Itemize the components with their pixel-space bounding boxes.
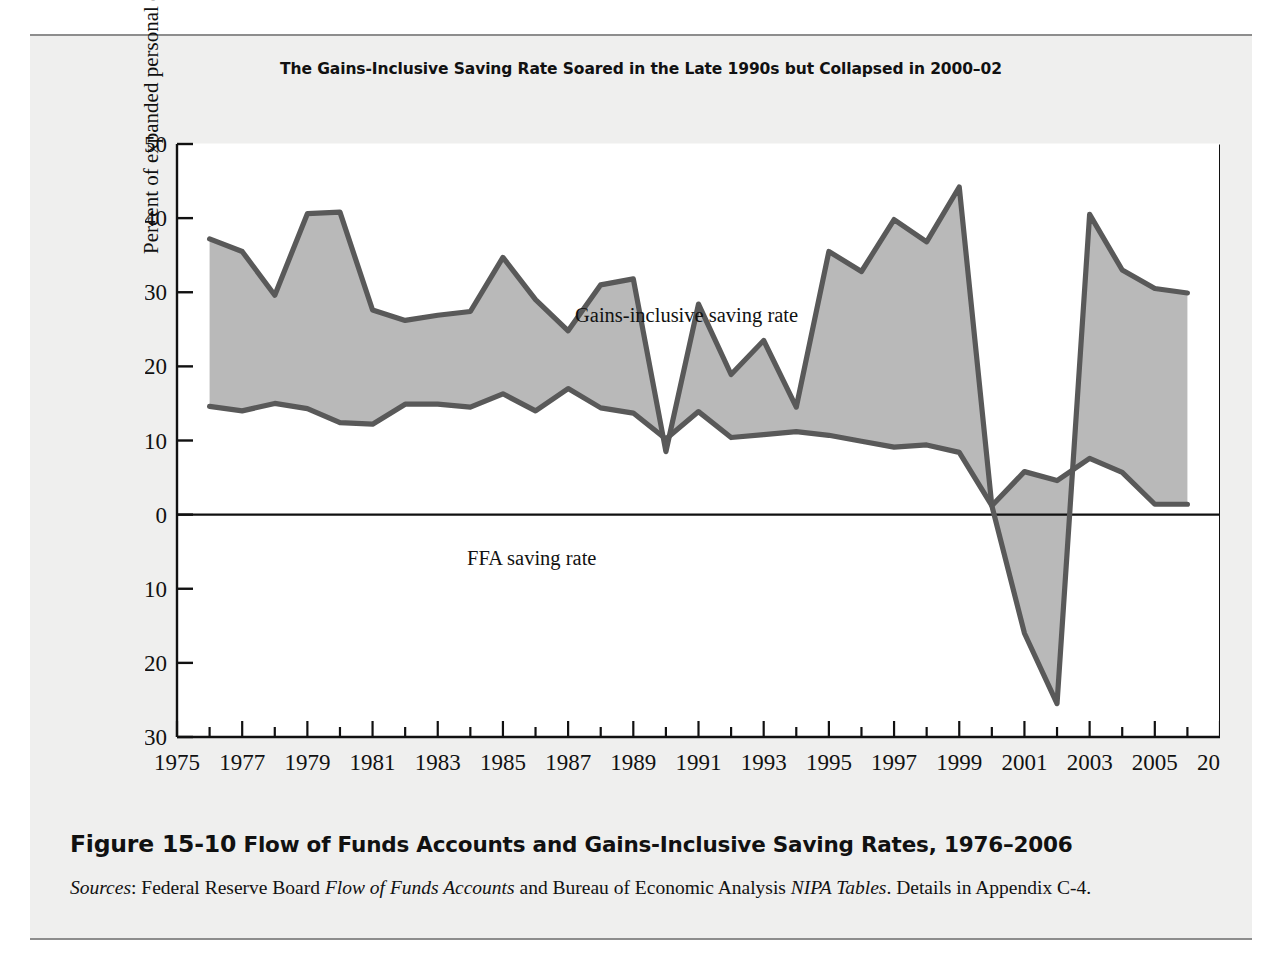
caption-sources: Sources: Federal Reserve Board Flow of F… [70,872,1160,903]
x-tick-label: 1979 [284,750,330,775]
x-tick-label: 1985 [480,750,526,775]
sources-text-1: : Federal Reserve Board [131,877,325,898]
caption-main: Figure 15-10 Flow of Funds Accounts and … [70,830,1160,859]
x-tick-label: 1975 [154,750,200,775]
y-axis-label: Percent of expanded personal disposable … [139,0,164,254]
x-tick-label: 2001 [1001,750,1047,775]
y-tick-label: 30 [145,280,167,305]
y-tick-label: 0 [156,503,168,528]
caption-figure-number: Figure 15-10 [70,830,236,858]
saving-rate-area-chart: –30–20–100102030405019751977197919811983… [145,104,1220,776]
x-tick-label: 1977 [219,750,265,775]
x-tick-label: 1983 [415,750,461,775]
x-tick-label: 1991 [676,750,722,775]
x-tick-label: 1981 [350,750,396,775]
x-tick-label: 2003 [1067,750,1113,775]
x-tick-label: 1997 [871,750,917,775]
x-tick-label: 1987 [545,750,591,775]
x-tick-label: 1993 [741,750,787,775]
x-tick-label: 2007 [1197,750,1220,775]
plot-area: Percent of expanded personal disposable … [145,104,1220,776]
chart-title: The Gains-Inclusive Saving Rate Soared i… [30,60,1252,78]
sources-italic-1: Flow of Funds Accounts [325,877,515,898]
sources-text-2: and Bureau of Economic Analysis [515,877,791,898]
series-label-ffa: FFA saving rate [467,547,596,570]
y-tick-label: 10 [145,429,167,454]
sources-text-3: . Details in Appendix C-4. [886,877,1091,898]
x-tick-label: 1989 [610,750,656,775]
x-tick-label: 1995 [806,750,852,775]
y-tick-label: –10 [145,577,167,602]
series-label-gains-inclusive: Gains-inclusive saving rate [575,304,798,327]
sources-label: Sources [70,877,131,898]
x-tick-label: 2005 [1132,750,1178,775]
sources-italic-2: NIPA Tables [791,877,887,898]
x-tick-label: 1999 [936,750,982,775]
y-tick-label: 20 [145,354,167,379]
caption-title: Flow of Funds Accounts and Gains-Inclusi… [236,832,1072,857]
y-tick-label: –30 [145,725,167,750]
figure-caption: Figure 15-10 Flow of Funds Accounts and … [70,830,1160,903]
y-tick-label: –20 [145,651,167,676]
figure-panel: The Gains-Inclusive Saving Rate Soared i… [30,34,1252,940]
